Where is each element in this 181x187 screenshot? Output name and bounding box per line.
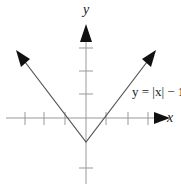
- x-axis-label: x: [167, 110, 173, 126]
- equation-label: y = |x| − 1: [132, 84, 181, 100]
- graph-figure: y x y = |x| − 1: [0, 0, 181, 187]
- right-ray-arrow-icon: [142, 50, 156, 67]
- left-ray-arrow-icon: [16, 50, 30, 67]
- y-axis-arrow-icon: [80, 24, 92, 42]
- axes: [6, 40, 158, 184]
- y-axis-label: y: [83, 2, 89, 18]
